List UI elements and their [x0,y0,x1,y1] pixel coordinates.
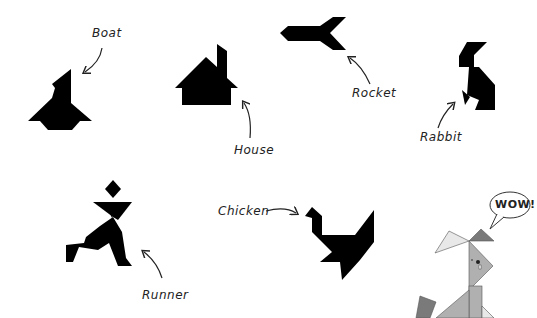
mascot-dog [416,229,494,318]
runner-silhouette [66,180,132,266]
chicken-silhouette [305,207,374,280]
boat-silhouette [28,69,92,130]
rabbit-arrow [438,104,453,128]
chicken-arrow [266,209,296,213]
dog-nose [476,260,480,264]
runner-arrow [144,252,162,278]
dog-tongue [479,265,481,269]
speech-text: WOW! [495,198,536,211]
house-arrow [244,103,250,138]
runner-label: Runner [142,288,188,302]
rocket-arrow [350,58,370,84]
rabbit-label: Rabbit [420,130,462,144]
boat-arrow [85,48,102,72]
rocket-label: Rocket [352,86,396,100]
chicken-label: Chicken [218,204,269,218]
dog-eye [471,259,473,261]
rocket-silhouette [280,17,346,50]
tangram-drawing [0,0,537,318]
boat-label: Boat [92,26,122,40]
rabbit-silhouette [459,42,495,110]
house-silhouette [175,44,238,105]
tangram-figure: Boat House Rocket Rabbit Runner Chicken … [0,0,537,318]
house-label: House [234,143,274,157]
